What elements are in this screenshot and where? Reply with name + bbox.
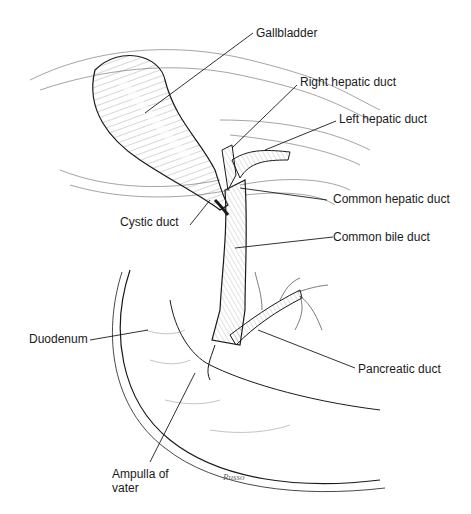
artist-signature: Russo (222, 472, 245, 482)
label-cystic-duct: Cystic duct (120, 215, 179, 229)
anatomy-illustration: Russo Gallbladder Right hepatic duct Lef… (0, 0, 471, 514)
label-common-hepatic-duct: Common hepatic duct (333, 192, 450, 206)
label-right-hepatic-duct: Right hepatic duct (300, 75, 396, 89)
label-ampulla-line1: Ampulla of (112, 467, 169, 481)
duodenum (112, 270, 385, 492)
label-pancreatic-duct: Pancreatic duct (358, 362, 441, 376)
label-gallbladder: Gallbladder (256, 26, 317, 40)
label-ampulla-line2: vater (112, 481, 139, 495)
left-hepatic-duct (232, 150, 290, 178)
label-left-hepatic-duct: Left hepatic duct (339, 112, 427, 126)
label-common-bile-duct: Common bile duct (333, 230, 430, 244)
biliary-anatomy-drawing: Russo (0, 0, 471, 514)
label-duodenum: Duodenum (29, 332, 88, 346)
right-hepatic-duct (222, 145, 236, 190)
